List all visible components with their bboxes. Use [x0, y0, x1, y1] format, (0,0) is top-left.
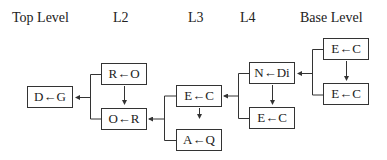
node-top-level: D←G	[27, 86, 73, 108]
node-l4-lower: E←C	[249, 107, 295, 129]
node-l4-upper: N←Di	[249, 62, 295, 84]
node-l2-lower: O←R	[101, 108, 147, 130]
node-base-upper: E←C	[323, 38, 369, 60]
node-l3-lower: A←Q	[176, 129, 222, 151]
node-base-lower: E←C	[323, 83, 369, 105]
node-l2-upper: R←O	[101, 63, 147, 85]
node-l3-upper: E←C	[176, 85, 222, 107]
